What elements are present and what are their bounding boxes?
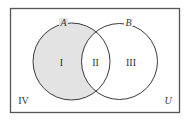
venn-diagram: A B I II III IV U [0, 0, 190, 121]
universe-label: U [164, 95, 172, 106]
region-i-label: I [60, 57, 63, 68]
set-a-label: A [59, 17, 67, 28]
region-ii-label: II [92, 57, 99, 68]
set-b-label: B [125, 17, 131, 28]
region-iii-label: III [126, 57, 136, 68]
region-iv-label: IV [18, 95, 29, 106]
